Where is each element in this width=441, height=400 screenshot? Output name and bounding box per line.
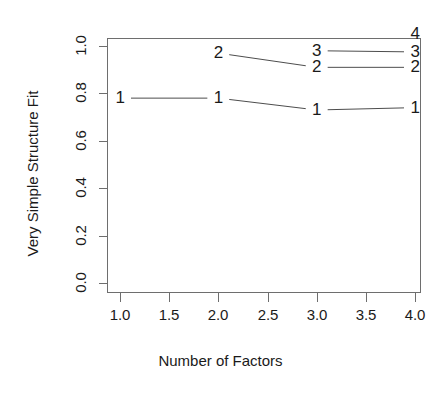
- y-axis-title: Very Simple Structure Fit: [24, 74, 41, 274]
- data-point-marker: 4: [407, 25, 423, 42]
- y-tick-label: 0.4: [72, 171, 89, 205]
- plot-frame: [107, 38, 421, 293]
- y-tick-label: 0.6: [72, 124, 89, 158]
- x-tick-mark: [169, 293, 170, 302]
- y-tick-mark: [99, 283, 108, 284]
- data-point-marker: 3: [407, 43, 423, 60]
- data-point-marker: 3: [309, 42, 325, 59]
- data-point-marker: 2: [210, 44, 226, 61]
- y-tick-label: 1.0: [72, 29, 89, 63]
- y-tick-mark: [99, 141, 108, 142]
- x-tick-label: 1.0: [98, 306, 142, 323]
- x-tick-mark: [415, 293, 416, 302]
- x-tick-label: 3.5: [344, 306, 388, 323]
- x-tick-mark: [366, 293, 367, 302]
- vss-chart: 0.00.20.40.60.81.0 1.01.52.02.53.03.54.0…: [0, 0, 441, 400]
- x-tick-label: 1.5: [147, 306, 191, 323]
- data-point-marker: 2: [309, 58, 325, 75]
- y-tick-mark: [99, 236, 108, 237]
- data-point-marker: 1: [309, 101, 325, 118]
- y-tick-label: 0.0: [72, 266, 89, 300]
- x-tick-label: 3.0: [295, 306, 339, 323]
- data-point-marker: 1: [210, 89, 226, 106]
- y-tick-label: 0.2: [72, 219, 89, 253]
- x-tick-label: 2.0: [196, 306, 240, 323]
- data-point-marker: 1: [407, 99, 423, 116]
- x-tick-mark: [317, 293, 318, 302]
- y-tick-mark: [99, 93, 108, 94]
- y-tick-mark: [99, 188, 108, 189]
- data-point-marker: 1: [112, 89, 128, 106]
- x-tick-label: 4.0: [393, 306, 437, 323]
- x-tick-mark: [218, 293, 219, 302]
- x-tick-mark: [268, 293, 269, 302]
- x-axis-title: Number of Factors: [0, 352, 441, 369]
- x-tick-mark: [120, 293, 121, 302]
- y-tick-mark: [99, 46, 108, 47]
- y-tick-label: 0.8: [72, 76, 89, 110]
- x-tick-label: 2.5: [246, 306, 290, 323]
